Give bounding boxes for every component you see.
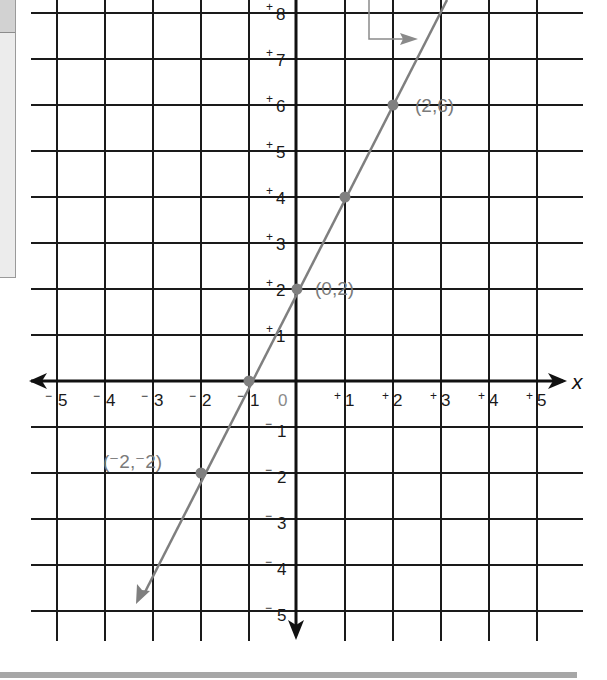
svg-text:−: −	[189, 389, 196, 403]
plotted-line-y-2x-plus-2	[136, 0, 447, 604]
svg-text:7: 7	[276, 51, 285, 70]
svg-text:2: 2	[276, 281, 285, 300]
svg-text:3: 3	[441, 391, 450, 410]
grid-horizontal-lines	[31, 13, 583, 611]
label-2-6: (2,6)	[415, 95, 454, 116]
svg-text:3: 3	[277, 514, 286, 533]
point-2-6	[388, 100, 399, 111]
svg-text:5: 5	[537, 391, 546, 410]
svg-text:1: 1	[250, 391, 259, 410]
svg-text:3: 3	[154, 391, 163, 410]
svg-text:+: +	[266, 276, 273, 290]
x-axis-name: x	[571, 370, 584, 393]
svg-text:3: 3	[276, 235, 285, 254]
svg-text:+: +	[266, 230, 273, 244]
svg-text:−: −	[265, 601, 272, 615]
svg-text:5: 5	[58, 391, 67, 410]
svg-text:1: 1	[277, 422, 286, 441]
svg-text:+: +	[266, 46, 273, 60]
coordinate-plane: − 5 − 4 − 3 − 2 − 1 0 + 1 + 2 + 3 + 4 + …	[0, 0, 607, 680]
svg-text:+: +	[266, 92, 273, 106]
axes	[29, 0, 567, 640]
svg-text:−: −	[93, 389, 100, 403]
svg-text:6: 6	[276, 97, 285, 116]
label-neg2-neg2: (⁻2,⁻2)	[103, 451, 162, 472]
svg-text:4: 4	[277, 560, 286, 579]
y-axis-tick-labels: + 8 + 7 + 6 + 5 + 4 + 3 + 2 + 1 − 1 − 2 …	[265, 0, 286, 625]
svg-text:−: −	[265, 509, 272, 523]
svg-text:4: 4	[276, 189, 285, 208]
label-0-2: (0,2)	[315, 278, 354, 299]
svg-text:+: +	[266, 184, 273, 198]
svg-text:4: 4	[489, 391, 498, 410]
svg-text:−: −	[265, 417, 272, 431]
svg-text:2: 2	[277, 468, 286, 487]
svg-text:2: 2	[202, 391, 211, 410]
x-axis-tick-labels: − 5 − 4 − 3 − 2 − 1 0 + 1 + 2 + 3 + 4 + …	[45, 370, 584, 410]
svg-text:5: 5	[277, 606, 286, 625]
svg-text:+: +	[266, 138, 273, 152]
point-0-2	[292, 284, 303, 295]
svg-text:−: −	[141, 389, 148, 403]
svg-text:+: +	[334, 389, 341, 403]
svg-text:4: 4	[106, 391, 115, 410]
svg-text:+: +	[430, 389, 437, 403]
svg-text:+: +	[266, 322, 273, 336]
bottom-divider-bar	[0, 672, 577, 678]
svg-text:0: 0	[278, 391, 287, 410]
svg-text:−: −	[265, 463, 272, 477]
svg-text:+: +	[382, 389, 389, 403]
point-neg1-0	[244, 376, 255, 387]
svg-text:8: 8	[276, 5, 285, 24]
svg-text:+: +	[478, 389, 485, 403]
svg-text:−: −	[45, 389, 52, 403]
point-1-4	[340, 192, 351, 203]
svg-text:+: +	[266, 0, 273, 14]
svg-text:−: −	[265, 555, 272, 569]
svg-text:2: 2	[393, 391, 402, 410]
svg-text:1: 1	[345, 391, 354, 410]
svg-text:5: 5	[276, 143, 285, 162]
point-neg2-neg2	[196, 468, 207, 479]
svg-text:+: +	[526, 389, 533, 403]
